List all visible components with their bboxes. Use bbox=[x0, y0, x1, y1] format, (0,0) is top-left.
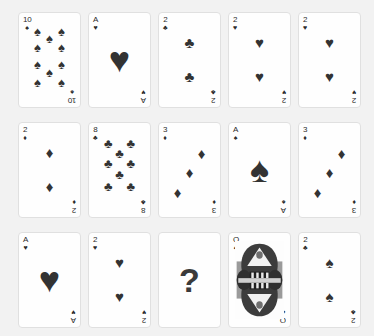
card-index-tl: 2♣ bbox=[303, 236, 308, 251]
pip-area: ♦♦♦ bbox=[168, 134, 211, 206]
playing-card[interactable]: 2♣2♣♣♣ bbox=[158, 12, 221, 108]
card-rank-label: 3 bbox=[303, 126, 307, 134]
card-rank-label: 2 bbox=[163, 16, 167, 24]
playing-card[interactable]: A♠A♠♠ bbox=[228, 122, 291, 218]
card-index-br: 2♥ bbox=[142, 309, 146, 324]
pip-area: ♦♦♦ bbox=[308, 134, 351, 206]
club-icon: ♣ bbox=[303, 244, 308, 251]
heart-pip-icon: ♥ bbox=[325, 35, 334, 50]
spade-icon: ♠ bbox=[234, 134, 238, 141]
diamond-pip-icon: ♦ bbox=[338, 145, 346, 160]
playing-card[interactable]: 3♦3♦♦♦♦ bbox=[298, 122, 361, 218]
card-index-tl: 2♥ bbox=[303, 16, 307, 31]
card-index-br: 3♦ bbox=[352, 199, 356, 214]
spade-pip-icon: ♠ bbox=[58, 58, 65, 71]
club-pip-icon: ♣ bbox=[115, 146, 124, 159]
pip-area: ♥♥ bbox=[238, 24, 281, 96]
card-rank-label: 2 bbox=[303, 236, 307, 244]
spade-pip-icon: ♠ bbox=[250, 152, 269, 188]
spade-pip-icon: ♠ bbox=[58, 41, 65, 54]
card-rank-label: 2 bbox=[282, 96, 286, 104]
club-pip-icon: ♣ bbox=[126, 156, 135, 169]
card-rank-label: 2 bbox=[212, 96, 216, 104]
card-index-br: 3♦ bbox=[212, 199, 216, 214]
club-icon: ♣ bbox=[93, 134, 98, 141]
playing-card[interactable]: 2♥2♥♥♥ bbox=[298, 12, 361, 108]
club-pip-icon: ♣ bbox=[126, 136, 135, 149]
card-rank-label: 8 bbox=[93, 126, 97, 134]
heart-icon: ♥ bbox=[23, 244, 27, 251]
spade-pip-icon: ♠ bbox=[326, 288, 334, 303]
heart-icon: ♥ bbox=[233, 24, 237, 31]
heart-pip-icon: ♥ bbox=[109, 42, 130, 78]
playing-card[interactable]: A♥A♥♥ bbox=[88, 12, 151, 108]
diamond-icon: ♦ bbox=[303, 134, 307, 141]
heart-pip-icon: ♥ bbox=[255, 68, 264, 83]
diamond-pip-icon: ♦ bbox=[186, 165, 194, 180]
heart-pip-icon: ♥ bbox=[115, 255, 124, 270]
card-rank-label: A bbox=[141, 96, 146, 104]
spade-pip-icon: ♠ bbox=[58, 25, 65, 38]
card-rank-label: 10 bbox=[23, 16, 31, 24]
playing-card[interactable]: Q♣Q♣ bbox=[228, 232, 291, 328]
club-pip-icon: ♣ bbox=[115, 168, 124, 181]
pip-area: ♣♣♣♣♣♣♣♣ bbox=[98, 134, 141, 206]
pip-area: ♥♥ bbox=[98, 244, 141, 316]
card-rank-label: A bbox=[233, 126, 238, 134]
heart-pip-icon: ♥ bbox=[39, 262, 60, 298]
card-rank-label: 2 bbox=[142, 316, 146, 324]
card-rank-label: 2 bbox=[233, 16, 237, 24]
card-grid: 10♠10♠♠♠♠♠♠♠♠♠♠♠A♥A♥♥2♣2♣♣♣2♥2♥♥♥2♥2♥♥♥2… bbox=[0, 0, 374, 336]
club-pip-icon: ♣ bbox=[104, 136, 113, 149]
playing-card[interactable]: 10♠10♠♠♠♠♠♠♠♠♠♠♠ bbox=[18, 12, 81, 108]
card-rank-label: 3 bbox=[163, 126, 167, 134]
card-index-br: 8♣ bbox=[141, 199, 146, 214]
pip-area: ♦♦ bbox=[28, 134, 71, 206]
heart-icon: ♥ bbox=[303, 24, 307, 31]
playing-card[interactable]: A♥A♥♥ bbox=[18, 232, 81, 328]
club-pip-icon: ♣ bbox=[185, 35, 195, 50]
heart-icon: ♥ bbox=[93, 244, 97, 251]
card-index-br: 2♥ bbox=[352, 89, 356, 104]
spade-pip-icon: ♠ bbox=[46, 32, 53, 45]
playing-card[interactable]: 3♦3♦♦♦♦ bbox=[158, 122, 221, 218]
diamond-pip-icon: ♦ bbox=[198, 145, 206, 160]
card-index-tl: 2♥ bbox=[233, 16, 237, 31]
diamond-icon: ♦ bbox=[212, 199, 216, 206]
card-rank-label: A bbox=[23, 236, 28, 244]
pip-area: ♥ bbox=[98, 24, 141, 96]
card-rank-label: 2 bbox=[303, 16, 307, 24]
pip-area: ♥ bbox=[28, 244, 71, 316]
diamond-icon: ♦ bbox=[72, 199, 76, 206]
club-icon: ♣ bbox=[211, 89, 216, 96]
card-rank-label: A bbox=[93, 16, 98, 24]
card-index-br: 2♣ bbox=[351, 309, 356, 324]
club-pip-icon: ♣ bbox=[104, 156, 113, 169]
card-index-tl: 2♣ bbox=[163, 16, 168, 31]
card-index-tl: 8♣ bbox=[93, 126, 98, 141]
heart-icon: ♥ bbox=[141, 89, 145, 96]
heart-pip-icon: ♥ bbox=[325, 68, 334, 83]
playing-card[interactable]: 8♣8♣♣♣♣♣♣♣♣♣ bbox=[88, 122, 151, 218]
playing-card[interactable]: 2♥2♥♥♥ bbox=[228, 12, 291, 108]
diamond-pip-icon: ♦ bbox=[46, 145, 54, 160]
card-rank-label: A bbox=[281, 206, 286, 214]
club-icon: ♣ bbox=[141, 199, 146, 206]
card-index-br: 2♥ bbox=[282, 89, 286, 104]
club-pip-icon: ♣ bbox=[126, 179, 135, 192]
playing-card[interactable]: 2♥2♥♥♥ bbox=[88, 232, 151, 328]
card-rank-label: 3 bbox=[352, 206, 356, 214]
card-index-tl: 3♦ bbox=[303, 126, 307, 141]
playing-card[interactable]: 2♦2♦♦♦ bbox=[18, 122, 81, 218]
spade-icon: ♠ bbox=[282, 199, 286, 206]
spade-pip-icon: ♠ bbox=[34, 58, 41, 71]
club-pip-icon: ♣ bbox=[104, 179, 113, 192]
pip-area: ♣♣ bbox=[168, 24, 211, 96]
court-card-artwork bbox=[235, 241, 284, 319]
heart-icon: ♥ bbox=[142, 309, 146, 316]
card-index-tl: 2♥ bbox=[93, 236, 97, 251]
playing-card[interactable]: 2♣2♣♠♠ bbox=[298, 232, 361, 328]
card-index-br: A♥ bbox=[71, 309, 76, 324]
diamond-icon: ♦ bbox=[23, 134, 27, 141]
playing-card[interactable]: ? bbox=[158, 232, 221, 328]
